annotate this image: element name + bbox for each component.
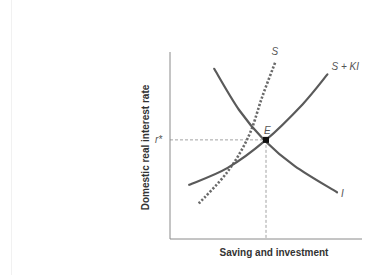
y-axis-title: Domestic real interest rate <box>140 84 151 210</box>
equilibrium-label: E <box>264 125 271 136</box>
x-axis-title: Saving and investment <box>220 247 330 258</box>
series-label-i: I <box>341 188 344 199</box>
series-curve-s-ki <box>189 74 327 184</box>
equilibrium-point <box>263 137 269 143</box>
series-label-s-plus-ki: S + KI <box>331 61 359 72</box>
series-label-s: S <box>272 46 279 57</box>
chart: E r* S S + KI I Saving and investment Do… <box>0 0 381 275</box>
r-star-tick-label: r* <box>155 134 163 145</box>
